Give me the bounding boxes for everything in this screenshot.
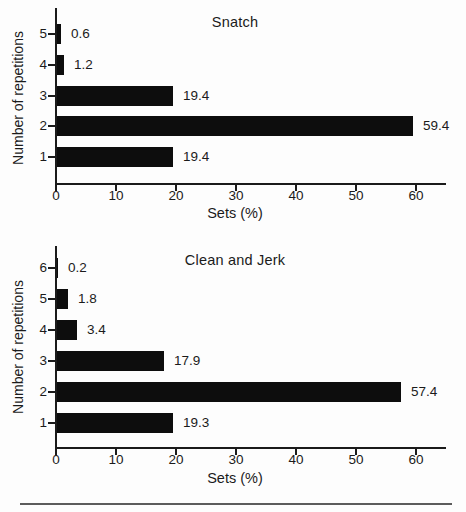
y-tick <box>48 391 55 393</box>
x-tick-label: 30 <box>221 452 251 468</box>
bar <box>57 147 173 167</box>
bar-value-label: 59.4 <box>423 116 466 136</box>
bar <box>57 289 68 309</box>
x-tick-label: 40 <box>281 188 311 204</box>
bar-value-label: 19.4 <box>183 86 233 106</box>
bar-value-label: 1.2 <box>74 55 124 75</box>
x-axis-line <box>55 183 446 185</box>
y-tick-label: 3 <box>23 352 47 370</box>
bar-value-label: 19.3 <box>183 413 233 433</box>
bar-value-label: 0.6 <box>71 24 121 44</box>
y-tick <box>48 267 55 269</box>
bottom-rule-divider <box>20 503 452 505</box>
y-tick <box>48 156 55 158</box>
y-tick <box>48 125 55 127</box>
x-tick-label: 10 <box>101 452 131 468</box>
bar-value-label: 3.4 <box>87 320 137 340</box>
chart-clean-and-jerk: Clean and JerkNumber of repetitions60.25… <box>0 238 466 490</box>
x-tick-label: 40 <box>281 452 311 468</box>
y-tick <box>48 64 55 66</box>
bar-value-label: 0.2 <box>68 258 118 278</box>
bar <box>57 320 77 340</box>
bar <box>57 55 64 75</box>
x-tick-label: 10 <box>101 188 131 204</box>
y-tick-label: 1 <box>23 414 47 432</box>
x-tick-label: 20 <box>161 452 191 468</box>
y-tick-label: 4 <box>23 321 47 339</box>
bar <box>57 86 173 106</box>
bar <box>57 258 58 278</box>
bar-value-label: 19.4 <box>183 147 233 167</box>
bar <box>57 116 413 136</box>
bar <box>57 24 61 44</box>
y-tick <box>48 422 55 424</box>
x-axis-label: Sets (%) <box>55 469 415 487</box>
bar-value-label: 17.9 <box>174 351 224 371</box>
y-tick <box>48 360 55 362</box>
x-tick-label: 20 <box>161 188 191 204</box>
x-tick-label: 60 <box>401 452 431 468</box>
figure-page: SnatchNumber of repetitions50.641.2319.4… <box>0 0 466 512</box>
x-tick-label: 30 <box>221 188 251 204</box>
y-tick-label: 2 <box>23 383 47 401</box>
x-tick-label: 0 <box>41 452 71 468</box>
y-tick-label: 5 <box>23 25 47 43</box>
y-tick <box>48 329 55 331</box>
y-tick <box>48 33 55 35</box>
y-tick-label: 4 <box>23 56 47 74</box>
y-tick-label: 3 <box>23 87 47 105</box>
y-tick <box>48 298 55 300</box>
bar <box>57 413 173 433</box>
y-tick-label: 2 <box>23 117 47 135</box>
x-tick-label: 60 <box>401 188 431 204</box>
bar <box>57 351 164 371</box>
x-tick-label: 50 <box>341 188 371 204</box>
bar-value-label: 57.4 <box>411 382 461 402</box>
y-tick-label: 1 <box>23 148 47 166</box>
x-tick-label: 50 <box>341 452 371 468</box>
y-tick-label: 6 <box>23 259 47 277</box>
y-tick <box>48 95 55 97</box>
chart-snatch: SnatchNumber of repetitions50.641.2319.4… <box>0 0 466 238</box>
x-axis-label: Sets (%) <box>55 204 415 222</box>
y-tick-label: 5 <box>23 290 47 308</box>
bar-value-label: 1.8 <box>78 289 128 309</box>
x-axis-line <box>55 447 446 449</box>
x-tick-label: 0 <box>41 188 71 204</box>
bar <box>57 382 401 402</box>
